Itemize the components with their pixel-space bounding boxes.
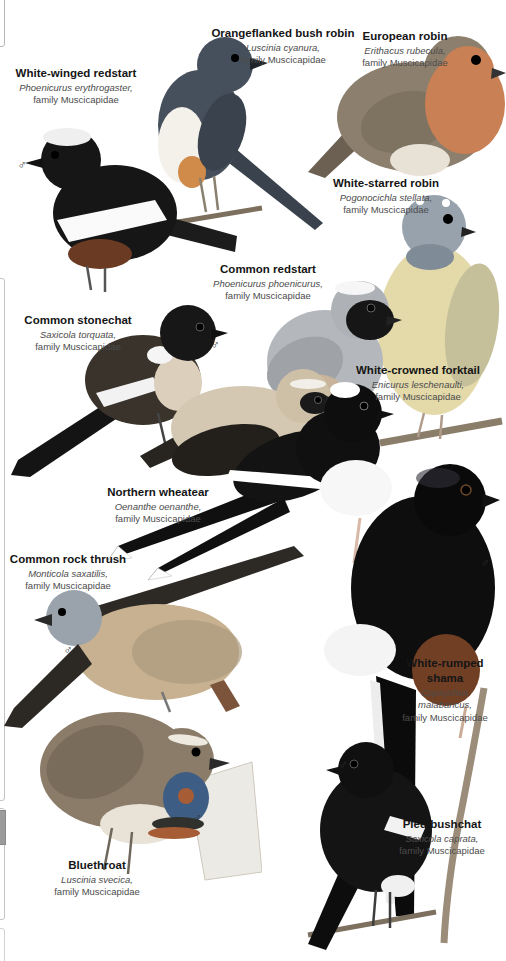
male-symbol-common-rock-thrush: ♂: [64, 643, 73, 657]
species-label-white-winged-redstart: White-winged redstart Phoenicurus erythr…: [1, 66, 151, 107]
species-scientific-name: Enicurus leschenaulti,: [338, 379, 498, 391]
species-common-name: Common rock thrush: [0, 552, 138, 567]
species-label-pied-bushchat: Pied bushchat Saxicola caprata, family M…: [377, 817, 506, 858]
head: [160, 305, 216, 361]
species-label-white-rumped-shama: White-rumped shama Copsychus malabaricus…: [395, 656, 495, 724]
eye: [51, 151, 59, 159]
species-common-name: Bluethroat: [32, 858, 162, 873]
tail: [4, 644, 92, 728]
species-common-name: White-rumped shama: [395, 656, 495, 686]
species-label-european-robin: European robin Erithacus rubecula, famil…: [335, 29, 475, 70]
species-scientific-name: Monticola saxatilis,: [0, 568, 138, 580]
rufous-spot: [178, 788, 194, 804]
beak: [386, 316, 402, 326]
species-common-name: White-crowned forktail: [338, 363, 498, 378]
white-rump: [324, 624, 396, 676]
male-symbol-common-redstart: ♂: [368, 300, 377, 314]
species-scientific-name: Luscinia svecica,: [32, 874, 162, 886]
species-label-bluethroat: Bluethroat Luscinia svecica, family Musc…: [32, 858, 162, 899]
eye: [461, 485, 471, 495]
species-common-name: White-winged redstart: [1, 66, 151, 81]
bird-bluethroat: [0, 612, 262, 884]
gloss: [416, 468, 460, 488]
male-symbol-white-winged-redstart: ♂: [18, 158, 27, 172]
species-scientific-name: Copsychus malabaricus,: [395, 687, 495, 712]
species-scientific-name: Erithacus rubecula,: [335, 45, 475, 57]
species-family: family Muscicapidae: [0, 580, 138, 592]
beak: [482, 494, 500, 508]
species-label-white-starred-robin: White-starred robin Pogonocichla stellat…: [316, 176, 456, 217]
species-common-name: White-starred robin: [316, 176, 456, 191]
species-label-common-redstart: Common redstart Phoenicurus phoenicurus,…: [193, 262, 343, 303]
species-label-common-stonechat: Common stonechat Saxicola torquata, fami…: [8, 313, 148, 354]
leg: [87, 266, 91, 290]
species-common-name: Northern wheatear: [88, 485, 228, 500]
species-family: family Muscicapidae: [88, 513, 228, 525]
branch: [444, 688, 484, 943]
beak: [461, 227, 476, 237]
beak: [25, 158, 43, 168]
male-symbol-pied-bushchat: ♂: [339, 758, 348, 772]
species-family: family Muscicapidae: [338, 391, 498, 403]
species-common-name: Common redstart: [193, 262, 343, 277]
species-family: family Muscicapidae: [8, 341, 148, 353]
species-label-northern-wheatear: Northern wheatear Oenanthe oenanthe, fam…: [88, 485, 228, 526]
species-scientific-name: Phoenicurus erythrogaster,: [1, 82, 151, 94]
species-common-name: European robin: [335, 29, 475, 44]
species-scientific-name: Pogonocichla stellata,: [316, 192, 456, 204]
species-common-name: Common stonechat: [8, 313, 148, 328]
rufous-vent: [68, 239, 132, 269]
species-family: family Muscicapidae: [316, 204, 456, 216]
species-common-name: Pied bushchat: [377, 817, 506, 832]
species-family: family Muscicapidae: [395, 712, 495, 724]
species-scientific-name: Phoenicurus phoenicurus,: [193, 278, 343, 290]
beak: [377, 410, 394, 420]
white-crown: [43, 128, 91, 146]
eye: [192, 748, 201, 757]
male-symbol-white-rumped-shama: ♂: [481, 556, 490, 570]
male-symbol-common-stonechat: ♂: [211, 338, 220, 352]
eye: [350, 760, 358, 768]
belly: [390, 144, 450, 176]
species-family: family Muscicapidae: [32, 886, 162, 898]
page-edge-bottom: [0, 928, 5, 961]
rufous-band: [148, 827, 200, 839]
white-vent: [381, 875, 415, 897]
species-scientific-name: Saxicola caprata,: [377, 833, 506, 845]
species-label-white-crowned-forktail: White-crowned forktail Enicurus leschena…: [338, 363, 498, 404]
species-family: family Muscicapidae: [335, 57, 475, 69]
beak: [209, 758, 230, 770]
species-scientific-name: Oenanthe oenanthe,: [88, 501, 228, 513]
species-scientific-name: Saxicola torquata,: [8, 329, 148, 341]
species-label-common-rock-thrush: Common rock thrush Monticola saxatilis, …: [0, 552, 138, 593]
page-edge-top: [0, 0, 5, 47]
eye: [196, 323, 204, 331]
species-family: family Muscicapidae: [193, 290, 343, 302]
field-guide-page: Orangeflanked bush robin Luscinia cyanur…: [0, 0, 506, 961]
male-symbol-bluethroat: ♂: [193, 811, 202, 825]
species-family: family Muscicapidae: [1, 94, 151, 106]
species-family: family Muscicapidae: [377, 845, 506, 857]
